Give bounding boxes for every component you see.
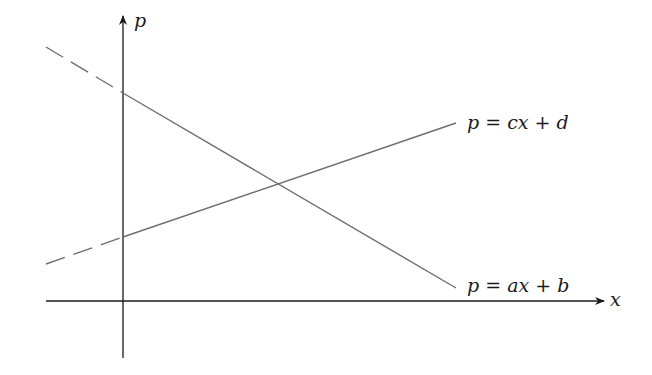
supply-equation-label: p = cx + d [467,113,569,132]
demand-line-dashed [46,47,123,93]
demand-equation-label: p = ax + b [467,276,569,295]
supply-line [123,123,456,237]
x-axis-label: x [610,290,621,309]
supply-line-dashed [46,237,123,264]
y-axis-label: p [134,11,146,30]
diagram-canvas [0,0,652,375]
demand-line [123,93,456,288]
